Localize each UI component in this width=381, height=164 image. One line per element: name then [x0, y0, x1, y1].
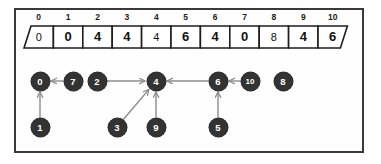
graph-node-8: 8	[274, 72, 293, 91]
graph-node-3: 3	[108, 118, 127, 137]
graph-node-7: 7	[64, 72, 83, 91]
graph-node-9: 9	[147, 118, 166, 137]
graph-node-5: 5	[209, 118, 228, 137]
graph-edges	[0, 0, 381, 164]
graph-node-10: 10	[241, 72, 260, 91]
graph-edge-3-to-4	[123, 89, 149, 119]
graph-node-0: 0	[31, 72, 50, 91]
graph-node-6: 6	[209, 72, 228, 91]
graph-node-1: 1	[31, 118, 50, 137]
figure-canvas: 00102434445664708894106 072461081395	[0, 0, 381, 164]
graph-node-2: 2	[88, 72, 107, 91]
graph-node-4: 4	[147, 72, 166, 91]
